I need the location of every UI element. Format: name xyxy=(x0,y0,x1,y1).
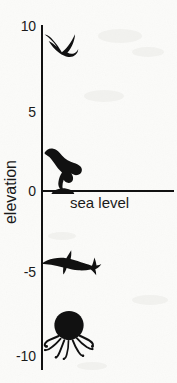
dolphin-icon xyxy=(40,146,84,194)
elevation-number-line-figure: 10 5 0 -5 -10 elevation sea level xyxy=(0,0,177,383)
sea-level-annotation: sea level xyxy=(70,195,129,211)
octopus-icon xyxy=(43,309,95,361)
shark-icon xyxy=(41,249,102,279)
y-axis-title: elevation xyxy=(0,0,22,383)
bird-icon xyxy=(43,29,83,69)
y-axis-title-text: elevation xyxy=(3,159,19,223)
